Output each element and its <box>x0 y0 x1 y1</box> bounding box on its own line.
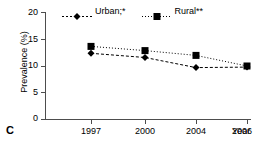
chart-legend: Urban;* Rural** <box>62 6 203 16</box>
chart-screenshot: Prevalence (%) 20 15 10 5 0 1997 2000 20… <box>0 0 261 144</box>
data-point-rural-2004 <box>193 52 200 59</box>
plot-area <box>0 0 261 144</box>
data-point-rural-1997 <box>88 43 95 50</box>
data-point-rural-2000 <box>142 47 149 54</box>
figure-panel-c: Prevalence (%) 20 15 10 5 0 1997 2000 20… <box>0 0 261 144</box>
square-marker-icon <box>142 7 172 16</box>
legend-label-rural: Rural** <box>175 6 204 16</box>
legend-entry-rural: Rural** <box>142 6 204 16</box>
legend-entry-urban: Urban;* <box>62 6 126 16</box>
series-line-urban <box>91 53 247 67</box>
series-line-rural <box>91 46 247 66</box>
data-point-urban-2004 <box>193 64 200 71</box>
legend-label-urban: Urban;* <box>95 6 126 16</box>
data-point-urban-1997 <box>88 50 95 57</box>
diamond-marker-icon <box>62 7 92 16</box>
data-point-urban-2000 <box>142 54 149 61</box>
